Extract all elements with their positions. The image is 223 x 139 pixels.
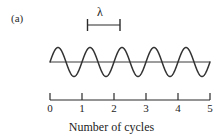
x-axis-caption: Number of cycles: [0, 120, 223, 134]
waveform-group: [50, 48, 210, 77]
x-axis-tick-label: 1: [79, 102, 85, 114]
x-axis-tick-label: 4: [175, 102, 181, 114]
wave-figure-panel-a: (a) λ 012345 Number of cycles: [0, 0, 223, 139]
figure-graphics: [0, 0, 223, 139]
x-axis-tick-label: 3: [143, 102, 149, 114]
wavelength-bracket: [87, 19, 120, 31]
x-axis-ticks: [50, 93, 210, 100]
x-axis-tick-label: 0: [47, 102, 53, 114]
x-axis-group: [50, 93, 210, 100]
x-axis-tick-label: 5: [207, 102, 213, 114]
x-axis-tick-label: 2: [111, 102, 117, 114]
